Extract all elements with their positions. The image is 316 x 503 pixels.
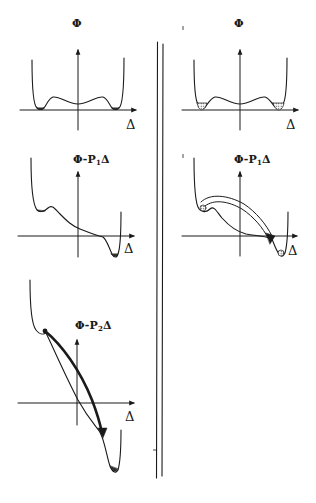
label-base: Φ-P <box>234 153 257 166</box>
x-label-top-right: Δ <box>286 118 295 131</box>
y-label-bottom-left: Φ-P2Δ <box>75 320 112 332</box>
y-label-middle-left: Φ-P1Δ <box>73 154 110 166</box>
panel-middle-left <box>18 158 134 257</box>
hatched-well-right <box>273 103 284 110</box>
label-tail: Δ <box>262 153 271 166</box>
potential-curve <box>30 280 121 472</box>
potential-curve <box>194 158 288 256</box>
x-label-middle-left: Δ <box>124 242 133 255</box>
y-label-top-right: Φ <box>234 18 244 29</box>
panel-top-right <box>182 50 298 130</box>
panel-top-left <box>20 50 136 130</box>
arrow-head <box>98 428 107 438</box>
x-label-top-left: Δ <box>126 118 135 131</box>
panel-middle-right <box>182 158 297 256</box>
label-tail: Δ <box>101 153 110 166</box>
potential-curve <box>31 158 121 257</box>
label-base: Φ-P <box>73 153 96 166</box>
y-label-middle-right: Φ-P1Δ <box>234 154 271 166</box>
panel-bottom-left <box>18 280 134 472</box>
hatched-well-left <box>197 103 207 110</box>
x-label-middle-right: Δ <box>288 244 297 257</box>
y-label-top-left: Φ <box>72 18 82 29</box>
label-tail: Δ <box>103 319 112 332</box>
bold-arrow <box>45 331 102 433</box>
label-base: Φ-P <box>75 319 98 332</box>
x-label-bottom-left: Δ <box>125 410 134 423</box>
column-divider <box>157 42 164 478</box>
potential-diagram <box>0 0 316 503</box>
